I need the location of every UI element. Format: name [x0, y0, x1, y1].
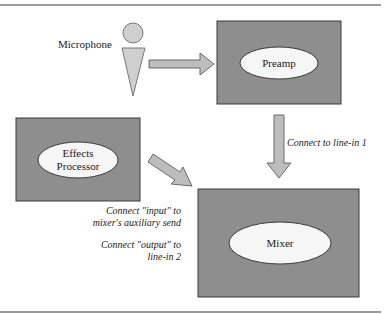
mixer-box: Mixer — [198, 189, 359, 297]
note-line-in-1: Connect to line-in 1 — [287, 137, 367, 148]
arrow-effects-to-mixer — [148, 154, 192, 186]
note-input-line1: Connect "input" to — [106, 205, 181, 216]
preamp-label: Preamp — [262, 57, 296, 69]
preamp-box: Preamp — [217, 21, 341, 104]
note-output-line1: Connect "output" to — [101, 239, 181, 250]
signal-flow-diagram: Microphone Preamp Connect to line-in 1 E… — [0, 0, 384, 314]
effects-label-line1: Effects — [63, 147, 94, 159]
note-output-line2: line-in 2 — [147, 251, 181, 262]
microphone-label: Microphone — [58, 38, 112, 50]
note-input-line2: mixer's auxiliary send — [93, 217, 182, 228]
effects-label-line2: Processor — [57, 160, 100, 172]
arrow-mic-to-preamp — [149, 53, 214, 75]
microphone-icon — [122, 23, 145, 96]
mixer-label: Mixer — [267, 237, 294, 249]
effects-processor-box: Effects Processor — [16, 118, 140, 201]
